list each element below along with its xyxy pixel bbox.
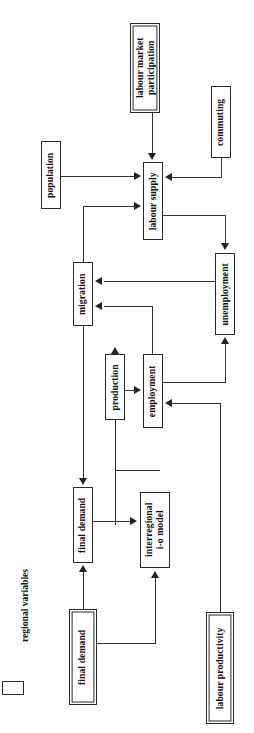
- arrowhead-left: [165, 399, 172, 407]
- edge-employment-migration-up: [152, 306, 153, 354]
- edge-labour-productivity-up: [220, 403, 221, 613]
- arrowhead-left: [95, 302, 102, 310]
- edge-exo-final-demand-up: [83, 572, 84, 609]
- node-label: population: [46, 152, 57, 197]
- arrowhead-up: [221, 337, 229, 344]
- edge-employment-to-migration: [104, 306, 153, 307]
- edge-population-to-labour-supply: [61, 176, 135, 177]
- edge-employment-to-final-demand: [83, 326, 84, 479]
- node-interregional-io-model[interactable]: interregional i-o model: [140, 492, 170, 568]
- edge-commuting-to-labour-supply: [172, 177, 222, 178]
- node-label: final demand: [78, 497, 89, 552]
- node-commuting[interactable]: commuting: [211, 86, 231, 158]
- legend-label-regional-variables: regional variables: [19, 558, 30, 654]
- node-final-demand-regional[interactable]: final demand: [73, 487, 93, 563]
- node-label: commuting: [216, 98, 227, 145]
- edge-io-model-to-production-horiz: [115, 470, 160, 471]
- edge-exo-final-demand-right: [97, 643, 155, 644]
- arrowhead-right: [130, 517, 137, 525]
- node-label: migration: [78, 273, 89, 314]
- edge-io-model-to-production-vert: [115, 470, 116, 525]
- node-labour-productivity[interactable]: labour productivity: [206, 612, 234, 724]
- node-label: production: [110, 364, 121, 410]
- node-labour-market-participation[interactable]: labour market participation: [130, 23, 160, 113]
- node-label: labour productivity: [215, 627, 226, 709]
- edge-unemployment-to-migration: [104, 281, 215, 282]
- edge-lmp-to-labour-supply: [152, 113, 153, 154]
- arrowhead-left: [165, 173, 172, 181]
- node-label: unemployment: [220, 263, 231, 326]
- node-migration[interactable]: migration: [73, 262, 93, 326]
- node-label: employment: [148, 365, 159, 417]
- node-label: labour supply: [148, 172, 159, 230]
- arrowhead-up: [151, 571, 159, 578]
- arrowhead-down: [221, 243, 229, 250]
- arrowhead-up: [79, 565, 87, 572]
- node-employment[interactable]: employment: [143, 354, 163, 428]
- node-population[interactable]: population: [41, 141, 61, 209]
- arrowhead-left: [95, 277, 102, 285]
- edge-labour-productivity-to-employment: [172, 403, 221, 404]
- node-production[interactable]: production: [105, 354, 125, 420]
- edge-commuting-vertical: [221, 158, 222, 177]
- node-label: labour market participation: [134, 38, 155, 99]
- node-label: final demand: [78, 629, 89, 684]
- edge-exo-final-demand-io-up: [155, 578, 156, 644]
- node-label: interregional i-o model: [144, 503, 165, 557]
- arrowhead-down: [148, 153, 156, 160]
- node-final-demand-exogenous[interactable]: final demand: [69, 609, 97, 705]
- edge-labour-supply-unemployment-down: [225, 215, 226, 244]
- edge-io-model-production-stem: [115, 420, 116, 470]
- arrowhead-right: [134, 172, 141, 180]
- arrowhead-right: [134, 386, 141, 394]
- diagram-canvas: labour market participation population c…: [0, 0, 254, 733]
- node-unemployment[interactable]: unemployment: [215, 253, 235, 335]
- node-labour-supply[interactable]: labour supply: [143, 162, 163, 240]
- edge-migration-to-labour-supply: [83, 206, 135, 207]
- edge-migration-up: [83, 206, 84, 263]
- edge-labour-supply-to-unemployment: [163, 215, 225, 216]
- arrowhead-right: [134, 202, 141, 210]
- edge-final-demand-to-io-model: [93, 521, 131, 522]
- legend-swatch-regional-variables: [2, 681, 24, 695]
- edge-employment-unemployment-up: [225, 344, 226, 383]
- edge-employment-to-unemployment: [163, 382, 225, 383]
- arrowhead-up: [111, 347, 119, 354]
- arrowhead-down: [79, 478, 87, 485]
